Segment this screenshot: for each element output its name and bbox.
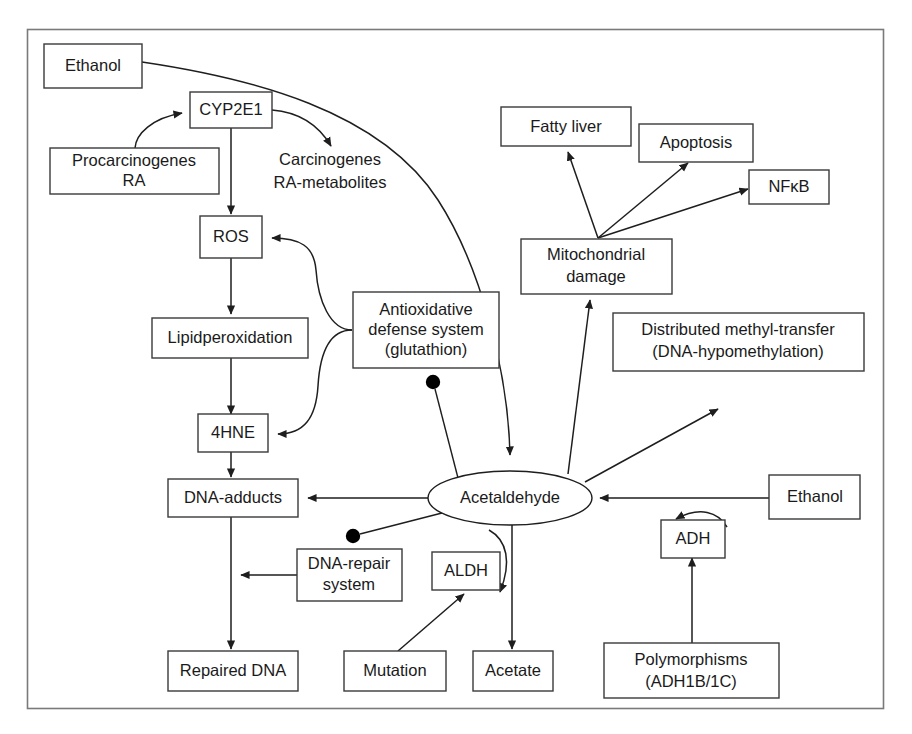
node-dna-adducts[interactable]: DNA-adducts bbox=[168, 479, 298, 517]
node-aldh-label: ALDH bbox=[444, 561, 488, 579]
node-adh[interactable]: ADH bbox=[661, 520, 725, 558]
node-dna-repair-system[interactable]: DNA-repair system bbox=[297, 549, 402, 601]
node-apoptosis[interactable]: Apoptosis bbox=[639, 124, 753, 162]
node-fatty-liver[interactable]: Fatty liver bbox=[501, 107, 631, 146]
node-apoptosis-label: Apoptosis bbox=[660, 133, 732, 151]
node-acetaldehyde-label: Acetaldehyde bbox=[460, 488, 560, 506]
pathway-diagram: Ethanol CYP2E1 Procarcinogenes RA Carcin… bbox=[0, 0, 912, 734]
node-fatty-liver-label: Fatty liver bbox=[530, 117, 602, 135]
node-antioxidative-label-line2: defense system bbox=[368, 320, 484, 338]
inhibition-dot-dna-repair bbox=[346, 529, 360, 543]
node-antioxidative-defense[interactable]: Antioxidative defense system (glutathion… bbox=[353, 292, 499, 368]
node-acetate-label: Acetate bbox=[485, 661, 541, 679]
node-4hne-label: 4HNE bbox=[211, 423, 255, 441]
node-ros[interactable]: ROS bbox=[200, 216, 262, 258]
node-antioxidative-label-line1: Antioxidative bbox=[379, 300, 473, 318]
node-dna-repair-label-line1: DNA-repair bbox=[308, 554, 391, 572]
node-polymorphisms[interactable]: Polymorphisms (ADH1B/1C) bbox=[604, 643, 779, 698]
node-dna-adducts-label: DNA-adducts bbox=[184, 488, 282, 506]
node-acetaldehyde[interactable]: Acetaldehyde bbox=[428, 471, 592, 525]
node-mutation-label: Mutation bbox=[363, 661, 426, 679]
node-procarcinogenes-label-line2: RA bbox=[123, 171, 146, 189]
node-4hne[interactable]: 4HNE bbox=[198, 414, 268, 452]
node-repaired-dna[interactable]: Repaired DNA bbox=[168, 651, 298, 691]
node-procarcinogenes[interactable]: Procarcinogenes RA bbox=[50, 148, 219, 194]
node-acetate[interactable]: Acetate bbox=[473, 651, 553, 691]
node-ros-label: ROS bbox=[213, 227, 249, 245]
node-nfkb-label: NFκB bbox=[768, 177, 809, 195]
node-mitochondrial-label-line1: Mitochondrial bbox=[547, 245, 645, 263]
node-ethanol-right[interactable]: Ethanol bbox=[769, 475, 860, 519]
node-methyl-transfer[interactable]: Distributed methyl-transfer (DNA-hypomet… bbox=[613, 313, 864, 371]
node-nfkb[interactable]: NFκB bbox=[749, 170, 829, 204]
node-lipidperoxidation[interactable]: Lipidperoxidation bbox=[152, 318, 308, 358]
node-mutation[interactable]: Mutation bbox=[344, 651, 446, 691]
node-mitochondrial-label-line2: damage bbox=[566, 267, 626, 285]
node-ethanol-top-label: Ethanol bbox=[65, 56, 121, 74]
node-cyp2e1[interactable]: CYP2E1 bbox=[190, 92, 272, 128]
node-methyl-transfer-label-line1: Distributed methyl-transfer bbox=[641, 320, 835, 338]
node-adh-label: ADH bbox=[676, 529, 711, 547]
node-repaired-dna-label: Repaired DNA bbox=[180, 661, 286, 679]
node-methyl-transfer-label-line2: (DNA-hypomethylation) bbox=[652, 342, 823, 360]
node-cyp2e1-label: CYP2E1 bbox=[199, 100, 262, 118]
node-carcinogenes-label-line2: RA-metabolites bbox=[274, 173, 387, 191]
flowchart-canvas: Ethanol CYP2E1 Procarcinogenes RA Carcin… bbox=[0, 0, 912, 734]
node-polymorphisms-label-line2: (ADH1B/1C) bbox=[645, 672, 737, 690]
node-procarcinogenes-label-line1: Procarcinogenes bbox=[72, 151, 196, 169]
node-antioxidative-label-line3: (glutathion) bbox=[385, 340, 468, 358]
inhibition-dot-antioxidative bbox=[426, 375, 440, 389]
node-carcinogenes-label-line1: Carcinogenes bbox=[279, 150, 381, 168]
node-aldh[interactable]: ALDH bbox=[432, 552, 500, 590]
node-ethanol-right-label: Ethanol bbox=[787, 487, 843, 505]
node-dna-repair-label-line2: system bbox=[323, 575, 375, 593]
node-lipidperoxidation-label: Lipidperoxidation bbox=[168, 328, 293, 346]
node-polymorphisms-label-line1: Polymorphisms bbox=[635, 650, 748, 668]
node-mitochondrial-damage[interactable]: Mitochondrial damage bbox=[521, 239, 672, 294]
node-ethanol-top[interactable]: Ethanol bbox=[44, 44, 142, 88]
